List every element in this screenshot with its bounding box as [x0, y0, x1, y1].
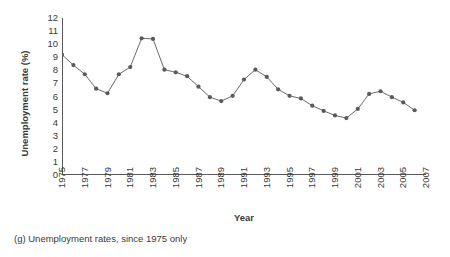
- data-point: [196, 85, 200, 89]
- y-tick-label: 5: [40, 105, 58, 115]
- x-tick-label: 2003: [376, 167, 386, 201]
- y-tick-label: 2: [40, 144, 58, 154]
- data-point: [390, 95, 394, 99]
- unemployment-rate-chart-figure: Unemployment rate (%) 0123456789101112 1…: [0, 0, 450, 257]
- x-tick-label: 1999: [330, 167, 340, 201]
- data-point: [231, 94, 235, 98]
- data-point: [242, 77, 246, 81]
- x-tick-label: 2005: [398, 167, 408, 201]
- data-point: [265, 75, 269, 79]
- data-point: [83, 72, 87, 76]
- axis-ticks: [62, 18, 426, 175]
- y-tick-label: 8: [40, 65, 58, 75]
- data-point: [128, 65, 132, 69]
- x-tick-label: 1977: [80, 167, 90, 201]
- data-point: [344, 116, 348, 120]
- plot-area: [62, 18, 426, 175]
- x-tick-label: 1975: [57, 167, 67, 201]
- x-tick-label: 1987: [194, 167, 204, 201]
- x-tick-label: 1991: [239, 167, 249, 201]
- data-point: [208, 95, 212, 99]
- x-axis-tick-labels: 1975197719791981198319851987198919911993…: [62, 179, 426, 213]
- data-point: [401, 100, 405, 104]
- data-point: [333, 113, 337, 117]
- x-tick-label: 1981: [125, 167, 135, 201]
- data-point: [276, 87, 280, 91]
- data-point: [151, 37, 155, 41]
- data-point: [287, 94, 291, 98]
- y-tick-label: 9: [40, 52, 58, 62]
- data-point: [356, 107, 360, 111]
- data-point: [413, 108, 417, 112]
- x-tick-label: 2007: [421, 167, 431, 201]
- x-tick-label: 1985: [171, 167, 181, 201]
- x-axis-title: Year: [62, 212, 426, 223]
- data-point: [140, 36, 144, 40]
- data-point: [322, 109, 326, 113]
- x-tick-label: 1979: [103, 167, 113, 201]
- y-tick-label: 4: [40, 118, 58, 128]
- line-chart-svg: [62, 18, 426, 175]
- data-point: [253, 68, 257, 72]
- data-point: [378, 89, 382, 93]
- y-tick-label: 12: [40, 13, 58, 23]
- y-tick-label: 11: [40, 26, 58, 36]
- x-tick-label: 1993: [262, 167, 272, 201]
- y-tick-label: 10: [40, 39, 58, 49]
- data-point: [367, 92, 371, 96]
- data-point: [299, 96, 303, 100]
- y-tick-label: 1: [40, 157, 58, 167]
- data-point: [185, 74, 189, 78]
- y-tick-label: 7: [40, 78, 58, 88]
- data-point: [310, 104, 314, 108]
- data-point: [105, 91, 109, 95]
- data-point: [71, 63, 75, 67]
- data-point: [94, 87, 98, 91]
- data-point: [219, 99, 223, 103]
- x-tick-label: 1983: [148, 167, 158, 201]
- data-point: [162, 68, 166, 72]
- x-tick-label: 2001: [353, 167, 363, 201]
- data-point: [174, 70, 178, 74]
- y-axis-tick-labels: 0123456789101112: [38, 18, 58, 175]
- y-tick-label: 3: [40, 131, 58, 141]
- x-tick-label: 1995: [285, 167, 295, 201]
- y-axis-title: Unemployment rate (%): [19, 24, 30, 184]
- y-tick-label: 6: [40, 92, 58, 102]
- data-point-markers: [62, 36, 417, 120]
- figure-caption: (g) Unemployment rates, since 1975 only: [14, 233, 187, 244]
- axes: [62, 18, 426, 175]
- x-tick-label: 1997: [307, 167, 317, 201]
- data-point: [117, 72, 121, 76]
- data-line-unemployment-rate: [62, 38, 415, 118]
- x-tick-label: 1989: [216, 167, 226, 201]
